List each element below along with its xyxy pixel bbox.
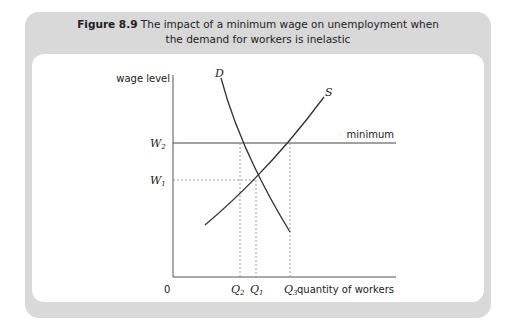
w2-label: W2 [150, 137, 166, 151]
y-axis-label: wage level [116, 73, 170, 84]
chart-svg: wage level D S minimum W2 W1 0 Q2 Q1 Q3 … [0, 0, 516, 331]
x-axis-label: quantity of workers [297, 284, 394, 295]
q2-label: Q2 [231, 283, 245, 297]
w1-label: W1 [150, 174, 166, 188]
supply-curve [205, 97, 324, 225]
supply-label: S [325, 86, 333, 99]
q3-label: Q3 [284, 283, 298, 297]
minimum-label: minimum [347, 129, 394, 140]
demand-curve [221, 78, 290, 232]
origin-label: 0 [164, 284, 170, 295]
q1-label: Q1 [250, 283, 264, 297]
demand-label: D [214, 67, 224, 80]
